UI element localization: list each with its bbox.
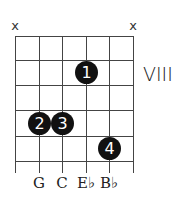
fret-line-5 [15,161,134,162]
note-label-g: G [27,174,51,192]
muted-string-1-marker: x [127,18,139,33]
note-label-c: C [50,174,74,192]
muted-string-6-marker: x [9,18,21,33]
fret-line-2 [15,85,134,86]
finger-dot-4: 4 [98,137,121,160]
chord-diagram: x x VIII 1 2 3 4 G C E♭ B♭ [0,0,177,208]
note-label-b-flat: B♭ [97,174,121,192]
fret-line-1 [15,60,134,61]
note-label-e-flat: E♭ [74,174,98,192]
fret-line-0 [15,36,134,37]
finger-dot-2: 2 [28,112,51,135]
string-1 [133,36,134,173]
fret-line-4 [15,136,134,137]
finger-dot-1: 1 [75,61,98,84]
fret-position-label: VIII [143,63,173,85]
string-4 [62,36,63,173]
string-5 [39,36,40,173]
finger-dot-3: 3 [51,112,74,135]
string-3 [86,36,87,173]
string-6 [15,36,16,173]
fret-line-3 [15,110,134,111]
